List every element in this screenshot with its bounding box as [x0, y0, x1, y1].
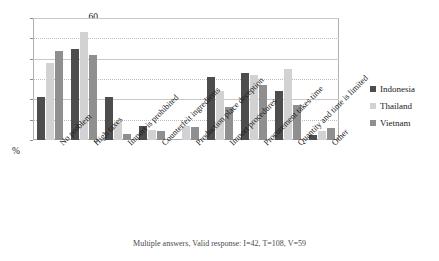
bar: [89, 55, 97, 140]
bar-group: [33, 18, 67, 140]
x-axis-label: Counterfeit ingredients: [160, 141, 166, 147]
legend-item: Indonesia: [370, 82, 415, 96]
bar: [46, 63, 54, 140]
figure-caption: Multiple answers, Valid response: I=42, …: [0, 239, 439, 249]
x-axis-label: Quantity and time is limited: [296, 141, 302, 147]
x-axis-label: Import is prohibited: [126, 141, 132, 147]
legend-swatch-icon: [370, 103, 376, 109]
legend-item: Vietnam: [370, 116, 415, 130]
x-axis-label: No problem: [58, 141, 64, 147]
legend-swatch-icon: [370, 120, 376, 126]
x-axis-label: Other: [330, 141, 336, 147]
bar: [37, 97, 45, 140]
bar: [318, 131, 326, 140]
legend-label: Thailand: [380, 102, 412, 111]
bar-chart-figure: 0102030405060 % No problemHigh taxesImpo…: [0, 0, 439, 261]
x-axis-label: Production place deception: [194, 141, 200, 147]
y-axis-unit-label: %: [12, 146, 20, 156]
legend-swatch-icon: [370, 86, 376, 92]
legend: IndonesiaThailandVietnam: [370, 82, 415, 133]
bar: [148, 130, 156, 140]
legend-label: Vietnam: [380, 119, 410, 128]
y-axis-tick-mark: [30, 140, 33, 141]
legend-item: Thailand: [370, 99, 415, 113]
bar: [55, 51, 63, 140]
x-axis-label: Import procedures: [228, 141, 234, 147]
x-axis-label: Procurement takes time: [262, 141, 268, 147]
legend-label: Indonesia: [380, 85, 415, 94]
